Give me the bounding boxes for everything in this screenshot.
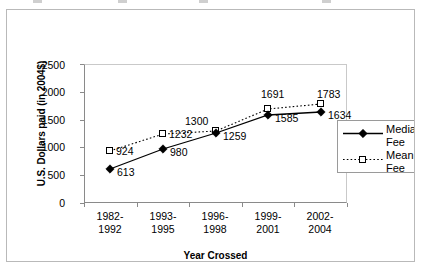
legend-label-line-1: Mean <box>386 149 414 162</box>
plot-area <box>84 64 347 203</box>
point-label-median-980: 980 <box>170 147 188 157</box>
legend-entry-mean-fee[interactable]: Mean Fee <box>338 150 415 173</box>
legend-key-mean-fee <box>342 154 384 165</box>
x-tick-mark-3 <box>242 203 243 207</box>
x-tick-mark-1 <box>137 203 138 207</box>
x-axis-title: Year Crossed <box>84 250 347 261</box>
point-label-median-1634: 1634 <box>328 110 351 120</box>
legend-label-median-fee: Median Fee <box>386 123 415 149</box>
point-label-mean-1783: 1783 <box>317 89 340 99</box>
x-cat-label-2002-2004: 2002- 2004 <box>289 210 351 235</box>
legend-label-line-2: Fee <box>386 136 415 149</box>
x-tick-mark-5 <box>347 203 348 207</box>
y-tick-label-1000: 1000 <box>21 142 65 152</box>
top-crop-artifact <box>0 0 422 4</box>
y-tick-label-0: 0 <box>21 198 65 208</box>
legend-label-mean-fee: Mean Fee <box>386 149 414 173</box>
y-tick-label-2500: 2500 <box>21 60 65 70</box>
y-tick-label-1500: 1500 <box>21 115 65 125</box>
x-tick-mark-2 <box>189 203 190 207</box>
chart-legend: Median Fee Mean Fee <box>337 120 415 173</box>
point-label-median-1259: 1259 <box>223 131 246 141</box>
legend-label-line-2: Fee <box>386 162 414 173</box>
legend-key-median-fee <box>342 128 384 139</box>
x-cat-line-top: 2002- <box>289 210 351 223</box>
point-label-mean-1232: 1232 <box>169 129 192 139</box>
point-label-median-1585: 1585 <box>275 113 298 123</box>
x-tick-mark-4 <box>294 203 295 207</box>
chart-frame: U.S. Dollars paid (in 2004$) 2500 2000 1… <box>6 9 415 262</box>
legend-label-line-1: Median <box>386 123 415 136</box>
point-label-mean-1300: 1300 <box>185 116 208 126</box>
point-label-mean-924: 924 <box>116 146 134 156</box>
y-tick-label-2000: 2000 <box>21 87 65 97</box>
y-tick-label-500: 500 <box>21 170 65 180</box>
point-label-median-613: 613 <box>117 167 135 177</box>
x-cat-line-bottom: 2004 <box>289 223 351 236</box>
legend-entry-median-fee[interactable]: Median Fee <box>338 124 415 148</box>
point-label-mean-1691: 1691 <box>261 89 284 99</box>
x-tick-mark-0 <box>84 203 85 207</box>
